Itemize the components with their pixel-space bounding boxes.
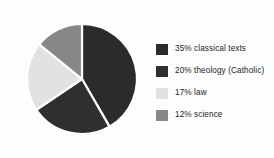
legend-label-law: 17% law: [175, 88, 207, 98]
pie-slice-group: [27, 24, 137, 134]
legend-swatch-law: [156, 88, 168, 99]
legend-item-classical-texts[interactable]: 35% classical texts: [156, 38, 272, 60]
pie-chart-svg: [24, 5, 142, 155]
pie-chart-figure: 35% classical texts 20% theology (Cathol…: [0, 0, 274, 158]
legend-swatch-science: [156, 110, 168, 121]
legend-label-science: 12% science: [175, 110, 223, 120]
pie-chart-plot-area: [24, 5, 142, 155]
chart-legend: 35% classical texts 20% theology (Cathol…: [156, 38, 272, 126]
legend-label-classical-texts: 35% classical texts: [175, 44, 246, 54]
legend-item-theology[interactable]: 20% theology (Catholic): [156, 60, 272, 82]
legend-label-theology: 20% theology (Catholic): [175, 66, 264, 76]
legend-swatch-theology: [156, 66, 168, 77]
legend-item-law[interactable]: 17% law: [156, 82, 272, 104]
legend-swatch-classical-texts: [156, 44, 168, 55]
legend-item-science[interactable]: 12% science: [156, 104, 272, 126]
